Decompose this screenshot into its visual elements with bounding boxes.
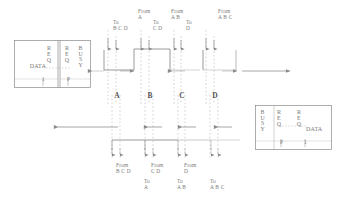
upper-transition-ticks bbox=[108, 38, 214, 49]
left-pin-right-label: P bbox=[64, 77, 73, 83]
bottom-annotation-to-2: To A B bbox=[177, 179, 186, 190]
phase-label-a: A bbox=[110, 92, 124, 100]
right-pin-right-label: 1 bbox=[301, 140, 310, 146]
phase-label-b: B bbox=[143, 92, 157, 100]
top-annotation-to-1: To C D bbox=[153, 20, 162, 31]
diagram-canvas bbox=[0, 0, 340, 198]
bottom-phase-guides bbox=[112, 95, 218, 158]
top-annotation-to-2: To D bbox=[186, 20, 192, 31]
left-req2-label: R E Q bbox=[62, 45, 72, 63]
right-req2-label: R E Q bbox=[294, 109, 304, 127]
bottom-annotation-from-2: From D bbox=[184, 163, 196, 174]
right-req-label: R E Q bbox=[274, 109, 284, 127]
bottom-annotation-from-1: From C D bbox=[151, 163, 163, 174]
phase-label-c: C bbox=[175, 92, 189, 100]
upper-waveform bbox=[104, 49, 236, 70]
right-data-label: DATA bbox=[306, 126, 340, 132]
top-annotation-from-2: From A B bbox=[171, 9, 183, 20]
bottom-annotation-to-3: To A B C bbox=[210, 179, 224, 190]
top-annotation-to-0: To B C D bbox=[113, 20, 128, 31]
phase-label-d: D bbox=[208, 92, 222, 100]
left-busy-label: BUSY bbox=[77, 45, 83, 67]
right-busy-label: BUSY bbox=[259, 109, 265, 131]
bottom-annotation-to-1: To A bbox=[144, 179, 150, 190]
left-pin-left-label: 1 bbox=[39, 77, 48, 83]
top-annotation-from-3: From A B C bbox=[218, 9, 232, 20]
timing-diagram-figure: DATA R E Q R E Q BUSY 1 P BUSY R E Q R E… bbox=[0, 0, 340, 198]
lower-waveform bbox=[112, 140, 240, 150]
left-data-label: DATA bbox=[12, 63, 46, 69]
right-pin-left-label: P bbox=[277, 140, 286, 146]
bottom-annotation-from-0: From B C D bbox=[116, 163, 131, 174]
lower-transition-ticks bbox=[112, 148, 218, 155]
left-req-label: R E Q bbox=[44, 45, 54, 63]
top-annotation-from-1: From A bbox=[138, 9, 150, 20]
